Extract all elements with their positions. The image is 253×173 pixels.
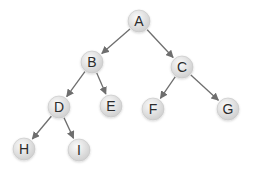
node-label: B: [87, 54, 96, 70]
node-g: G: [217, 98, 239, 120]
edge-d-i: [64, 118, 73, 138]
edge-a-c: [147, 30, 173, 58]
edge-c-f: [160, 77, 175, 98]
node-label: C: [177, 59, 187, 75]
node-a: A: [128, 10, 150, 32]
edges-layer: [32, 29, 218, 139]
node-d: D: [48, 96, 70, 118]
node-c: C: [171, 56, 193, 78]
edge-d-h: [32, 116, 51, 139]
node-label: F: [149, 101, 158, 117]
node-b: B: [81, 51, 103, 73]
node-label: H: [19, 141, 29, 157]
tree-diagram: ABCDEFGHI: [0, 0, 253, 173]
node-label: D: [54, 99, 64, 115]
edge-b-e: [97, 73, 106, 94]
node-label: E: [106, 98, 115, 114]
node-h: H: [13, 138, 35, 160]
node-i: I: [68, 139, 90, 161]
node-label: G: [223, 101, 234, 117]
node-label: I: [77, 142, 81, 158]
node-label: A: [134, 13, 144, 29]
node-f: F: [142, 98, 164, 120]
edge-a-b: [102, 29, 130, 54]
edge-b-d: [67, 72, 85, 97]
edge-c-g: [191, 75, 219, 100]
node-e: E: [100, 95, 122, 117]
